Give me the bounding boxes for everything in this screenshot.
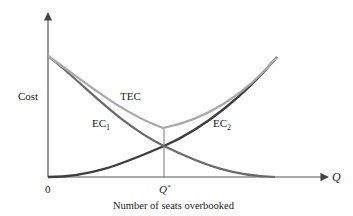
- x-axis-symbol: Q: [332, 170, 341, 184]
- ec2-label-sub: 2: [227, 123, 231, 132]
- q-star-main: Q: [159, 183, 167, 195]
- ec2-curve: [48, 57, 277, 177]
- tec-label: TEC: [120, 90, 141, 102]
- ec1-label-main: EC: [92, 117, 106, 129]
- y-axis-label: Cost: [18, 90, 38, 102]
- x-axis-title: Number of seats overbooked: [113, 200, 235, 211]
- origin-label: 0: [45, 183, 51, 195]
- q-star-sup: *: [167, 183, 171, 191]
- ec1-label-sub: 1: [106, 123, 110, 132]
- ec2-label: EC2: [213, 117, 231, 132]
- q-star-label: Q*: [159, 183, 171, 195]
- ec1-curve: [48, 56, 275, 177]
- cost-chart: Cost TEC EC1 EC2 0 Q* Q Number of seats …: [0, 0, 353, 216]
- ec2-label-main: EC: [213, 117, 227, 129]
- ec1-label: EC1: [92, 117, 110, 132]
